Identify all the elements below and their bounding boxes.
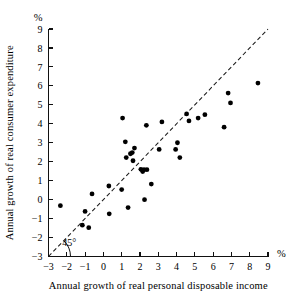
data-point xyxy=(126,205,131,210)
data-point xyxy=(144,123,149,128)
data-point xyxy=(226,91,231,96)
angle-annotation-group: 45° xyxy=(62,237,76,256)
data-point xyxy=(160,120,165,125)
x-tick-label: 3 xyxy=(156,261,161,272)
data-point xyxy=(145,167,150,172)
y-axis-title-group: Annual growth of real consumer expenditu… xyxy=(4,45,15,240)
reference-line-group xyxy=(49,29,269,257)
data-point xyxy=(175,140,180,145)
x-axis-title-group: Annual growth of real personal disposabl… xyxy=(49,280,268,291)
x-tick-label: −1 xyxy=(80,261,91,272)
x-tick-group: −3−2−10123456789 xyxy=(43,252,270,272)
data-point xyxy=(142,197,147,202)
data-point xyxy=(131,158,136,163)
y-tick-label: 9 xyxy=(38,24,43,35)
data-point xyxy=(119,187,124,192)
data-point xyxy=(228,101,233,106)
data-point xyxy=(106,184,111,189)
x-axis-title: Annual growth of real personal disposabl… xyxy=(49,280,268,291)
x-tick-label: −3 xyxy=(43,261,54,272)
y-tick-label: 1 xyxy=(38,175,43,186)
x-axis-unit-label: % xyxy=(277,248,286,259)
data-point xyxy=(123,139,128,144)
chart-canvas: Annual growth of real consumer expenditu… xyxy=(0,0,296,299)
x-tick-label: 5 xyxy=(192,261,197,272)
x-tick-label: −2 xyxy=(61,261,72,272)
x-tick-label: 7 xyxy=(229,261,234,272)
y-tick-label: 3 xyxy=(38,137,43,148)
data-point xyxy=(157,147,162,152)
y-tick-label: −3 xyxy=(32,251,43,262)
data-point xyxy=(256,81,261,86)
data-point xyxy=(184,112,189,117)
data-point xyxy=(202,112,207,117)
y-axis-unit-label: % xyxy=(34,12,43,23)
y-tick-label: 6 xyxy=(38,80,43,91)
scatter-plot-figure: Annual growth of real consumer expenditu… xyxy=(0,0,296,299)
data-point xyxy=(173,147,178,152)
data-point xyxy=(80,223,85,228)
x-tick-label: 8 xyxy=(247,261,252,272)
x-tick-label: 9 xyxy=(266,261,271,272)
x-tick-label: 4 xyxy=(174,261,179,272)
y-tick-label: 7 xyxy=(38,62,43,73)
x-tick-label: 0 xyxy=(101,261,106,272)
y-tick-label: 0 xyxy=(38,194,43,205)
data-point xyxy=(132,146,137,151)
data-point xyxy=(196,116,201,121)
y-tick-label: −1 xyxy=(32,213,43,224)
data-point xyxy=(120,116,125,121)
y-tick-group: −3−2−10123456789 xyxy=(32,24,53,263)
x-tick-label: 6 xyxy=(211,261,216,272)
data-point xyxy=(177,155,182,160)
data-point xyxy=(187,119,192,124)
data-point xyxy=(86,225,91,230)
data-point xyxy=(107,211,112,216)
data-point xyxy=(124,155,129,160)
data-point xyxy=(90,192,95,197)
y-tick-label: 5 xyxy=(38,99,43,110)
data-point xyxy=(149,182,154,187)
y-tick-label: 8 xyxy=(38,43,43,54)
y-axis-title: Annual growth of real consumer expenditu… xyxy=(4,45,15,240)
reference-line-45deg xyxy=(49,29,269,257)
data-point xyxy=(222,125,227,130)
angle-label-45deg: 45° xyxy=(62,237,76,248)
data-point xyxy=(83,209,88,214)
y-tick-label: −2 xyxy=(32,232,43,243)
x-tick-label: 1 xyxy=(119,261,124,272)
y-tick-label: 4 xyxy=(38,118,43,129)
x-tick-label: 2 xyxy=(137,261,142,272)
data-point xyxy=(58,203,63,208)
data-points-group xyxy=(58,81,260,230)
y-tick-label: 2 xyxy=(38,156,43,167)
data-point xyxy=(130,150,135,155)
